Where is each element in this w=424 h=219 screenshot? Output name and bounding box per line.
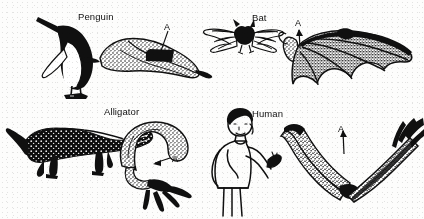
marker-label-alligator: A — [172, 154, 178, 164]
bat-wing-skeleton — [279, 28, 412, 85]
alligator-marker-arrowhead — [153, 160, 161, 166]
human-arm-skeleton — [281, 118, 424, 202]
bat-silhouette — [204, 19, 284, 54]
figure-artwork — [0, 0, 424, 219]
bat-marker-arrowhead — [296, 29, 303, 36]
human-figure — [212, 108, 281, 216]
marker-label-human: A — [338, 124, 344, 134]
panel-label-alligator: Alligator — [104, 106, 139, 117]
marker-label-bat: A — [295, 18, 301, 28]
panel-label-bat: Bat — [252, 12, 267, 23]
comparative-anatomy-figure: Penguin Bat Alligator Human A A A A — [0, 0, 424, 219]
panel-label-penguin: Penguin — [78, 11, 114, 22]
marker-label-penguin: A — [164, 22, 170, 32]
penguin-flipper-skeleton — [81, 31, 212, 78]
alligator-forelimb-skeleton — [120, 122, 191, 212]
panel-label-human: Human — [252, 108, 283, 119]
